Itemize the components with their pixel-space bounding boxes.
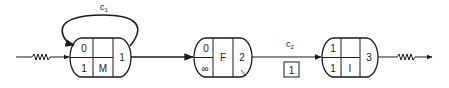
- node-f-right: 2: [239, 52, 245, 63]
- node-i-right: 3: [366, 52, 372, 63]
- node-f-top-left: 0: [203, 43, 209, 54]
- node-i-bottom-left: 1: [330, 63, 336, 74]
- tick-mark-icon: [241, 70, 246, 76]
- flow-diagram: 0 1 M 1 c1 0 ∞ F 2 c2 1 1 1: [0, 0, 449, 88]
- edge-c2-box-value: 1: [289, 65, 295, 76]
- node-m-right: 1: [119, 52, 125, 63]
- edge-c2-label: c2: [286, 39, 295, 50]
- node-m: 0 1 M 1: [70, 38, 131, 77]
- edge-c2-box: 1: [284, 62, 299, 77]
- node-i: 1 1 I 3: [322, 38, 378, 77]
- edge-c1-label: c1: [100, 2, 109, 13]
- node-f-label: F: [220, 52, 226, 63]
- node-f-bottom-left: ∞: [201, 63, 208, 74]
- node-i-top-left: 1: [330, 43, 336, 54]
- node-i-label: I: [349, 63, 352, 74]
- node-m-bottom-left: 1: [81, 63, 87, 74]
- self-loop-c1: c1: [62, 2, 138, 46]
- input-squiggle-icon: [16, 54, 69, 60]
- output-squiggle-icon: [378, 54, 432, 60]
- node-m-top-left: 0: [81, 43, 87, 54]
- node-f: 0 ∞ F 2: [194, 38, 252, 77]
- node-m-label: M: [99, 63, 107, 74]
